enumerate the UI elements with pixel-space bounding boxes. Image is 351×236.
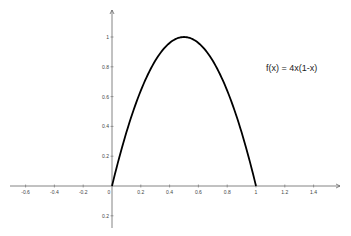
y-tick-label: 0.8: [102, 64, 109, 70]
function-label: f(x) = 4x(1-x): [266, 63, 317, 73]
x-tick-label: 0.6: [195, 189, 202, 195]
x-tick-label: 1.4: [310, 189, 317, 195]
y-tick-label: 0.6: [102, 94, 109, 100]
x-tick-label: 0.4: [166, 189, 173, 195]
function-curve: [112, 37, 256, 186]
x-tick-label: 0: [108, 189, 111, 195]
x-tick-label: 1.2: [281, 189, 288, 195]
x-tick-label: -0.2: [79, 189, 88, 195]
axes: [10, 10, 340, 228]
x-tick-label: 1: [255, 189, 258, 195]
y-tick-label: 0.4: [102, 123, 109, 129]
y-tick-label: 1: [106, 34, 109, 40]
x-tick-label: -0.6: [21, 189, 30, 195]
y-tick-label: 0.2: [102, 213, 109, 219]
y-tick-label: 0.2: [102, 153, 109, 159]
x-tick-label: 0.2: [137, 189, 144, 195]
x-tick-label: -0.4: [50, 189, 59, 195]
x-tick-label: 0.8: [224, 189, 231, 195]
function-plot: -0.6-0.4-0.200.20.40.60.811.21.40.20.40.…: [0, 0, 351, 236]
tick-labels: -0.6-0.4-0.200.20.40.60.811.21.40.20.40.…: [21, 34, 317, 219]
